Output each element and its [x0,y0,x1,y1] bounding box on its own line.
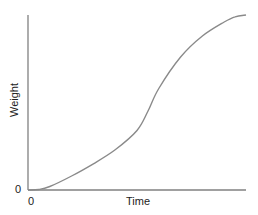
y-axis-label: Weight [8,80,20,120]
growth-chart [0,0,258,215]
y-origin-tick: 0 [15,183,21,195]
growth-curve [28,15,246,190]
x-axis-label: Time [126,195,150,207]
x-origin-tick: 0 [28,195,34,207]
